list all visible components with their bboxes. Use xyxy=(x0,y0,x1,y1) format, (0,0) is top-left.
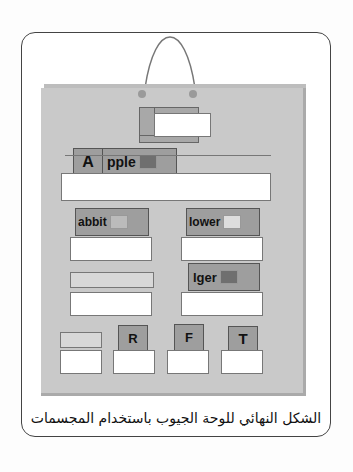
pocket-row3-left xyxy=(70,272,162,316)
figure-caption: الشكل النهائي للوحة الجيوب باستخدام المج… xyxy=(24,410,328,426)
rabbit-picture xyxy=(110,215,128,229)
pocket-row4-3 xyxy=(167,350,215,375)
pocket-row3-right xyxy=(181,292,271,317)
card-r[interactable]: R xyxy=(118,325,148,351)
card-rabbit-text: abbit xyxy=(78,215,107,229)
tiger-picture xyxy=(220,270,238,284)
card-flower-text: lower xyxy=(189,215,220,229)
card-f[interactable]: F xyxy=(174,324,204,351)
card-tiger-text: lger xyxy=(193,270,217,285)
pocket-row4-1 xyxy=(60,332,108,374)
pocket-row2-left xyxy=(70,237,160,262)
card-r-text: R xyxy=(128,331,137,346)
card-t-text: T xyxy=(238,330,247,347)
pocket-row4-2 xyxy=(113,350,161,375)
card-tiger[interactable]: lger xyxy=(188,263,260,291)
card-flower[interactable]: lower xyxy=(186,208,260,236)
pocket-row2-right xyxy=(181,237,271,262)
card-rabbit[interactable]: abbit xyxy=(75,208,149,236)
flower-picture xyxy=(223,215,241,229)
card-t[interactable]: T xyxy=(228,326,258,351)
hook-right xyxy=(189,90,197,98)
pocket-row4-4 xyxy=(221,350,269,375)
card-f-text: F xyxy=(185,330,193,345)
top-holder xyxy=(139,107,209,142)
hook-left xyxy=(138,90,146,98)
pocket-row1 xyxy=(61,155,279,202)
